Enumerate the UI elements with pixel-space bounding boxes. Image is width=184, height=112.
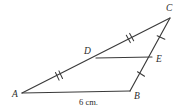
- vertex-label-a: A: [11, 89, 18, 99]
- measurement-labels-group: 6 cm.: [79, 97, 98, 107]
- segment-D-to-E: [96, 57, 152, 58]
- vertex-label-b: B: [134, 91, 140, 101]
- vertex-label-e: E: [155, 54, 162, 64]
- geometry-canvas: 6 cm. ABCDE: [0, 0, 184, 112]
- geometry-figure: 6 cm. ABCDE: [0, 0, 184, 112]
- vertex-label-c: C: [166, 3, 173, 13]
- segment-B-to-C: [130, 18, 170, 91]
- tick-AD: [55, 71, 62, 80]
- vertex-label-d: D: [83, 46, 91, 56]
- segment-A-to-B: [22, 91, 130, 93]
- segment-A-to-C: [22, 18, 170, 93]
- AB-length: 6 cm.: [79, 97, 98, 107]
- segments-group: [22, 18, 170, 93]
